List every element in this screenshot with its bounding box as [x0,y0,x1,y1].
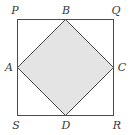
label-d: D [61,119,71,132]
label-q: Q [111,4,120,17]
label-c: C [118,61,127,74]
inner-square-abcd [18,20,114,116]
label-b: B [61,4,70,17]
label-r: R [112,119,121,132]
label-a: A [4,61,13,74]
label-p: P [10,4,19,17]
geometry-diagram: P B Q A C S D R [0,0,133,135]
label-s: S [12,119,20,132]
